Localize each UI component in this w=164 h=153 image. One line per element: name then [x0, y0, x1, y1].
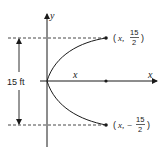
- x-axis-label: x: [147, 69, 153, 80]
- lower-close-paren: ): [147, 120, 150, 130]
- upper-point-dot: [104, 36, 108, 40]
- lower-x-coord: x, −: [117, 120, 133, 130]
- parabola-diagram: y x x 15 ft ( x, 15 2 ) ( x, − 15 2 ): [0, 0, 164, 153]
- lower-point-label: ( x, − 15 2 ): [113, 115, 150, 134]
- lower-point-dot: [104, 123, 108, 127]
- upper-fraction-numerator: 15: [130, 28, 138, 37]
- lower-open-paren: (: [113, 120, 116, 130]
- upper-fraction-denominator: 2: [132, 38, 136, 47]
- focus-point-dot: [104, 79, 107, 82]
- dimension-label: 15 ft: [7, 77, 25, 87]
- lower-fraction-numerator: 15: [136, 115, 144, 124]
- upper-point-label: ( x, 15 2 ): [113, 28, 144, 47]
- upper-close-paren: ): [141, 33, 144, 43]
- y-axis-label: y: [49, 10, 55, 21]
- upper-x-coord: x,: [117, 33, 124, 43]
- segment-x-label: x: [72, 69, 78, 80]
- upper-open-paren: (: [113, 33, 116, 43]
- lower-fraction-denominator: 2: [138, 125, 142, 134]
